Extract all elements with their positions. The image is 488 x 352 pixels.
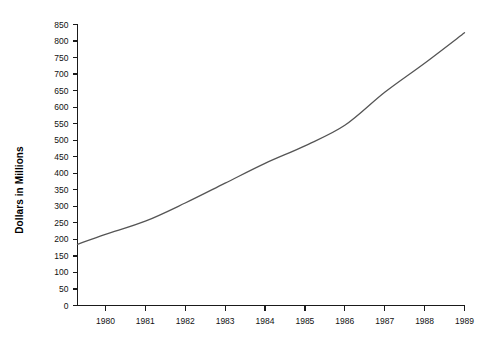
- line-chart: Dollars in Millions 05010015020025030035…: [0, 0, 488, 352]
- y-axis-ticks: 0501001502002503003504004505005506006507…: [54, 20, 77, 311]
- x-tick-label: 1984: [256, 316, 275, 326]
- y-tick-label: 350: [54, 185, 68, 195]
- y-tick-label: 0: [64, 301, 69, 311]
- x-tick-label: 1988: [415, 316, 434, 326]
- y-tick-label: 600: [54, 102, 68, 112]
- y-tick-label: 100: [54, 267, 68, 277]
- x-tick-label: 1986: [335, 316, 354, 326]
- y-tick-label: 800: [54, 36, 68, 46]
- x-tick-label: 1989: [455, 316, 474, 326]
- y-tick-label: 450: [54, 152, 68, 162]
- y-tick-label: 150: [54, 251, 68, 261]
- y-tick-label: 750: [54, 53, 68, 63]
- y-tick-label: 50: [59, 284, 69, 294]
- y-tick-label: 250: [54, 218, 68, 228]
- data-series-line: [78, 33, 465, 245]
- y-tick-label: 300: [54, 201, 68, 211]
- x-axis-ticks: 1980198119821983198419851986198719881989: [96, 306, 474, 326]
- y-tick-label: 400: [54, 168, 68, 178]
- y-tick-label: 700: [54, 69, 68, 79]
- y-tick-label: 550: [54, 119, 68, 129]
- x-tick-label: 1983: [216, 316, 235, 326]
- x-tick-label: 1982: [176, 316, 195, 326]
- y-tick-label: 200: [54, 234, 68, 244]
- plot-area: 0501001502002503003504004505005506006507…: [0, 0, 488, 352]
- y-tick-label: 850: [54, 20, 68, 30]
- x-tick-label: 1985: [295, 316, 314, 326]
- y-tick-label: 650: [54, 86, 68, 96]
- x-tick-label: 1981: [136, 316, 155, 326]
- x-tick-label: 1980: [96, 316, 115, 326]
- y-tick-label: 500: [54, 135, 68, 145]
- x-tick-label: 1987: [375, 316, 394, 326]
